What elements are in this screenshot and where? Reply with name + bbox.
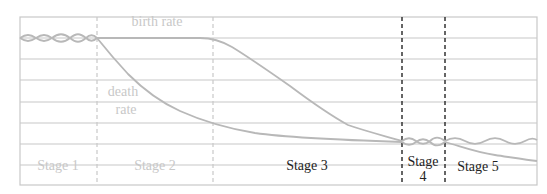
death-rate-line: [97, 38, 402, 142]
demographic-transition-diagram: birth rate death rate Stage 1 Stage 2 St…: [0, 0, 547, 194]
stage-4-label-line1: Stage: [407, 154, 438, 169]
stage-2-label: Stage 2: [134, 158, 176, 173]
stage-3-label: Stage 3: [286, 158, 328, 173]
stage-4-label-line2: 4: [420, 169, 427, 184]
stage-5-label: Stage 5: [457, 159, 499, 174]
stage-1-label: Stage 1: [37, 158, 79, 173]
death-rate-label-line1: death: [108, 84, 138, 99]
death-rate-label-line2: rate: [116, 102, 137, 117]
birth-rate-label: birth rate: [132, 14, 183, 29]
stage5-birth-rate-line: [445, 138, 537, 144]
birth-rate-line: [97, 38, 402, 141]
